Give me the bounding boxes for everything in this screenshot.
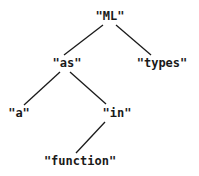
edge-ml-types xyxy=(116,25,151,55)
node-ml: "ML" xyxy=(96,10,125,22)
tree-edges xyxy=(0,0,199,176)
tree-diagram: "ML" "as" "types" "a" "in" "function" xyxy=(0,0,199,176)
edge-as-in xyxy=(70,72,106,104)
edge-in-function xyxy=(76,122,105,153)
node-as: "as" xyxy=(53,57,82,69)
node-types: "types" xyxy=(137,57,188,69)
edge-as-a xyxy=(24,72,60,105)
node-in: "in" xyxy=(103,107,132,119)
node-function: "function" xyxy=(44,155,116,167)
edge-ml-as xyxy=(64,25,103,55)
node-a: "a" xyxy=(8,107,30,119)
